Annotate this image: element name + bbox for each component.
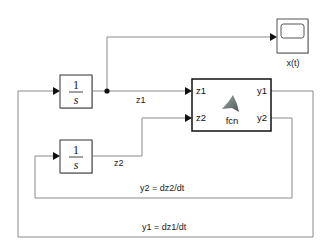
scope-screen-icon [281, 24, 304, 38]
integrator-block-1[interactable]: 1 s [60, 75, 93, 109]
scope-label: x(t) [287, 58, 300, 68]
wire-z2[interactable] [92, 114, 192, 156]
fcn-input-z1: z1 [196, 85, 206, 96]
integrator-2-numerator: 1 [73, 143, 79, 157]
fcn-block-name: fcn [226, 115, 239, 126]
integrator-block-2[interactable]: 1 s [60, 140, 93, 174]
fcn-input-z2: z2 [196, 112, 206, 123]
branch-point [104, 88, 109, 93]
fcn-output-y1: y1 [257, 85, 267, 96]
integrator-1-numerator: 1 [73, 78, 79, 92]
fcn-output-y2: y2 [257, 112, 267, 123]
matlab-function-block[interactable]: z1 z2 y1 y2 fcn [192, 79, 271, 131]
simulink-diagram: 1 s 1 s z1 z2 y1 y2 fcn x(t) z1 z2 y2 = … [0, 0, 330, 247]
integrator-2-denominator: s [74, 158, 79, 172]
scope-block[interactable]: x(t) [277, 19, 309, 68]
signal-label-y1: y1 = dz1/dt [142, 222, 187, 232]
integrator-1-denominator: s [74, 93, 79, 107]
signal-label-z1: z1 [136, 95, 146, 105]
signal-label-z2: z2 [114, 158, 124, 168]
signal-label-y2: y2 = dz2/dt [140, 183, 185, 193]
